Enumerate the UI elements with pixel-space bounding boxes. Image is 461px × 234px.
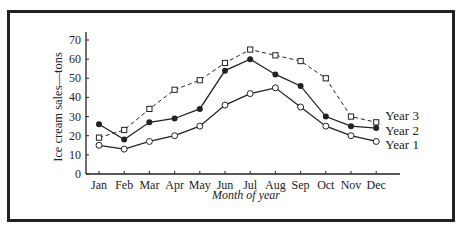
x-tick-label: Dec [367,178,386,192]
data-point [248,47,253,52]
data-point [222,68,228,74]
data-point [272,71,278,77]
x-tick-label: Sep [292,178,310,192]
data-point [172,87,177,92]
data-point [348,123,354,129]
x-tick-label: Apr [165,178,184,192]
y-tick-label: 70 [69,33,81,47]
legend-label: Year 2 [385,123,419,138]
data-point [96,121,102,127]
data-point [122,127,127,132]
data-point [298,83,304,89]
axes: 010203040506070JanFebMarAprMayJunJulAugS… [69,32,400,192]
legend-label: Year 3 [385,108,419,123]
data-point [96,135,101,140]
data-point [373,125,379,131]
data-point [323,76,328,81]
y-tick-label: 60 [69,52,81,66]
x-tick-label: Feb [115,178,133,192]
data-point [222,102,228,108]
data-point [323,123,329,129]
data-point [348,114,353,119]
data-point [298,58,303,63]
series-line [99,88,376,149]
data-point [197,78,202,83]
data-point [273,53,278,58]
data-point [247,91,253,97]
data-point [172,115,178,121]
legend-label: Year 1 [385,137,419,152]
data-point [323,114,329,120]
x-tick-label: Nov [341,178,362,192]
data-point [147,106,152,111]
line-chart: 010203040506070JanFebMarAprMayJunJulAugS… [0,0,461,234]
x-tick-label: Mar [139,178,159,192]
data-point [121,146,127,152]
y-axis-label: Ice cream sales—tons [51,52,65,162]
x-axis-label: Month of year [211,188,280,202]
data-point [374,120,379,125]
x-tick-label: Oct [317,178,335,192]
data-point [146,119,152,125]
data-point [197,106,203,112]
data-point [348,133,354,139]
y-tick-label: 50 [69,71,81,85]
y-tick-label: 0 [75,167,81,181]
data-point [172,133,178,139]
x-tick-label: May [189,178,211,192]
data-point [298,104,304,110]
data-point [373,138,379,144]
y-tick-label: 10 [69,148,81,162]
data-point [222,60,227,65]
series-year-3 [96,47,378,140]
data-point [247,56,253,62]
data-point [197,123,203,129]
series-line [99,50,376,138]
data-point [146,138,152,144]
series-group [96,47,379,152]
data-point [272,85,278,91]
legend: Year 3Year 2Year 1 [385,108,419,152]
x-tick-label: Jan [91,178,107,192]
y-tick-label: 40 [69,90,81,104]
y-tick-label: 20 [69,129,81,143]
data-point [96,142,102,148]
data-point [121,137,127,143]
y-tick-label: 30 [69,110,81,124]
